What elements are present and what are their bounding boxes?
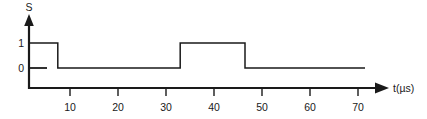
x-tick-label-50: 50 <box>256 101 268 113</box>
y-axis-arrowhead <box>24 14 34 26</box>
x-tick-label-30: 30 <box>160 101 172 113</box>
x-tick-label-10: 10 <box>64 101 76 113</box>
timing-diagram-svg: S 1 0 10 20 30 40 50 60 70 t(µs) <box>0 0 427 119</box>
signal-waveform-trace <box>29 43 365 68</box>
x-axis-arrowhead <box>375 82 389 93</box>
x-tick-label-60: 60 <box>304 101 316 113</box>
x-tick-label-40: 40 <box>208 101 220 113</box>
x-tick-label-70: 70 <box>352 101 364 113</box>
y-axis-label: S <box>25 1 32 13</box>
x-axis-ticks <box>70 89 358 96</box>
signal-timing-figure: S 1 0 10 20 30 40 50 60 70 t(µs) <box>0 0 427 119</box>
x-tick-label-20: 20 <box>112 101 124 113</box>
x-axis-label: t(µs) <box>393 82 414 94</box>
y-tick-label-0: 0 <box>18 62 24 74</box>
y-tick-label-1: 1 <box>18 37 24 49</box>
